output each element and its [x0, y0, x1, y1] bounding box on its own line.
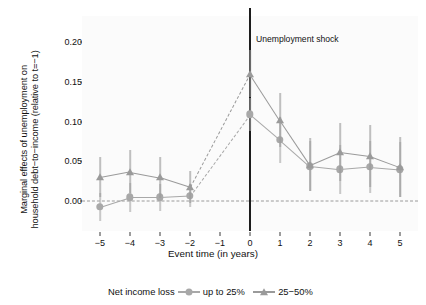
x-tick-mark [160, 232, 161, 236]
x-tick-mark [400, 232, 401, 236]
y-tick-label: 0.00 [48, 196, 82, 206]
x-tick-mark [310, 232, 311, 236]
y-axis-title-line1: Marginal effects of unemployment on [19, 23, 30, 255]
x-tick-mark [340, 232, 341, 236]
y-tick-label: 0.05 [48, 156, 82, 166]
x-tick-mark [250, 232, 251, 236]
legend-spacer [313, 285, 318, 296]
legend-key-circle-marker [178, 291, 200, 293]
data-point-circle [96, 203, 103, 210]
data-point-triangle [96, 174, 104, 181]
series-line-segment [249, 74, 280, 121]
x-tick-label: −5 [85, 238, 115, 248]
y-tick-label: 0.10 [48, 117, 82, 127]
data-point-triangle [246, 70, 254, 77]
data-point-triangle [186, 183, 194, 190]
series-line-segment [100, 197, 130, 208]
legend-label: up to 25% [203, 286, 245, 297]
x-tick-label: 2 [295, 238, 325, 248]
triangle-marker [260, 288, 268, 295]
x-tick-mark [370, 232, 371, 236]
chart-legend: Net income lossup to 25% 25−50% [0, 285, 426, 297]
y-axis-ticks: 0.000.050.100.150.20 [42, 0, 82, 305]
data-point-triangle [126, 168, 134, 175]
shock-annotation-label: Unemployment shock [256, 34, 339, 44]
data-point-triangle [336, 148, 344, 155]
series-line-segment-dashed [190, 114, 251, 196]
data-point-triangle [396, 163, 404, 170]
x-tick-mark [100, 232, 101, 236]
y-tick-label: 0.20 [48, 37, 82, 47]
x-tick-mark [220, 232, 221, 236]
legend-label: 25−50% [278, 286, 313, 297]
x-tick-label: 1 [265, 238, 295, 248]
x-tick-label: −3 [145, 238, 175, 248]
x-tick-label: 4 [355, 238, 385, 248]
legend-spacer [245, 285, 250, 296]
legend-key-triangle-marker [253, 291, 275, 293]
x-axis-title: Event time (in years) [0, 248, 426, 259]
x-tick-label: −1 [205, 238, 235, 248]
y-tick-label: 0.15 [48, 77, 82, 87]
data-point-triangle [276, 116, 284, 123]
event-study-chart: Marginal effects of unemployment on hous… [0, 0, 426, 305]
x-tick-label: −2 [175, 238, 205, 248]
x-tick-mark [280, 232, 281, 236]
circle-marker [185, 288, 192, 295]
x-tick-label: 0 [235, 238, 265, 248]
data-point-triangle [366, 152, 374, 159]
series-line-segment-dashed [190, 74, 251, 188]
x-tick-label: 5 [385, 238, 415, 248]
x-tick-label: 3 [325, 238, 355, 248]
plot-area: Unemployment shock [82, 16, 418, 231]
data-point-triangle [156, 174, 164, 181]
x-tick-mark [190, 232, 191, 236]
data-point-triangle [306, 161, 314, 168]
legend-title: Net income loss [108, 286, 175, 297]
y-axis-title-line2: household debt−to−income (relative to t=… [30, 23, 41, 255]
x-tick-label: −4 [115, 238, 145, 248]
y-axis-title: Marginal effects of unemployment on hous… [19, 23, 42, 255]
x-tick-mark [130, 232, 131, 236]
